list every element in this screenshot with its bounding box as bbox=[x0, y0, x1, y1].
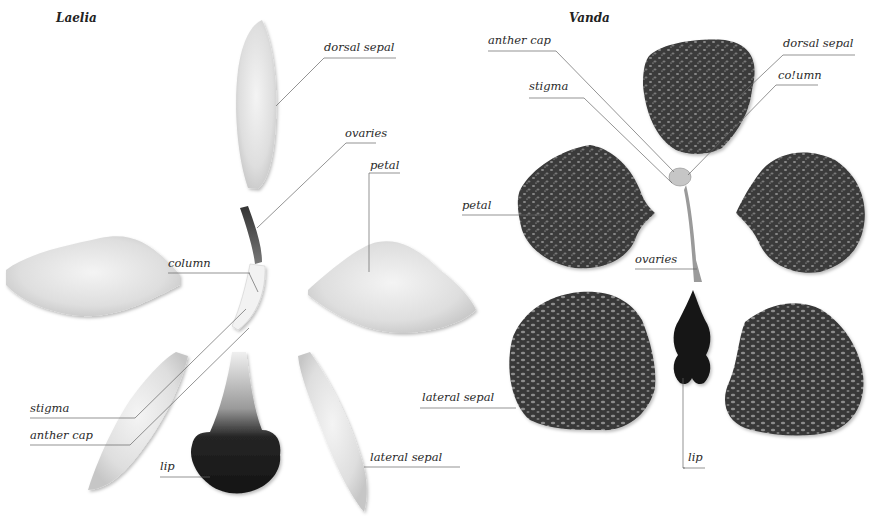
vanda-label-anther-cap: anther cap bbox=[488, 35, 551, 47]
laelia-left-petal bbox=[6, 236, 180, 316]
vanda-left-petal bbox=[518, 145, 655, 268]
laelia-ovaries bbox=[240, 206, 262, 264]
laelia-dorsal-sepal bbox=[236, 20, 276, 189]
laelia-label-column: column bbox=[168, 258, 211, 270]
laelia-label-petal: petal bbox=[370, 160, 399, 172]
laelia-label-stigma: stigma bbox=[30, 403, 69, 415]
vanda-label-lateral-sepal: lateral sepal bbox=[422, 392, 494, 404]
laelia-label-lateral-sepal: lateral sepal bbox=[370, 452, 442, 464]
vanda-label-ovaries: ovaries bbox=[635, 254, 677, 266]
orchid-anatomy-diagram: Laelia Vanda dorsal sepal ovaries petal … bbox=[0, 0, 876, 521]
laelia-title: Laelia bbox=[56, 12, 97, 24]
vanda-lip bbox=[674, 290, 711, 384]
diagram-artwork bbox=[0, 0, 876, 521]
laelia-label-ovaries: ovaries bbox=[345, 128, 387, 140]
laelia-column bbox=[232, 264, 265, 330]
vanda-dorsal-sepal bbox=[643, 40, 755, 154]
vanda-right-lateral-sepal bbox=[725, 303, 863, 435]
vanda-ovaries bbox=[684, 185, 702, 282]
vanda-left-lateral-sepal bbox=[509, 292, 655, 430]
vanda-right-petal bbox=[736, 153, 865, 273]
laelia-label-lip: lip bbox=[160, 461, 175, 473]
vanda-label-dorsal-sepal: dorsal sepal bbox=[783, 38, 853, 50]
laelia-lip bbox=[191, 352, 280, 493]
laelia-right-lateral-sepal bbox=[298, 352, 367, 512]
laelia-label-anther-cap: anther cap bbox=[30, 430, 93, 442]
laelia-label-dorsal-sepal: dorsal sepal bbox=[324, 42, 394, 54]
vanda-label-column: co!umn bbox=[778, 70, 822, 82]
vanda-label-lip: lip bbox=[688, 452, 703, 464]
laelia-right-petal bbox=[308, 241, 476, 333]
vanda-label-stigma: stigma bbox=[529, 81, 568, 93]
vanda-title: Vanda bbox=[569, 12, 610, 24]
vanda-flower bbox=[509, 40, 865, 436]
vanda-label-petal: petal bbox=[462, 200, 491, 212]
